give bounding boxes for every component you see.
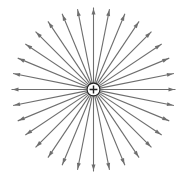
field-line xyxy=(95,9,110,83)
field-line xyxy=(77,9,92,83)
field-line xyxy=(101,88,176,92)
field-line xyxy=(92,97,96,172)
field-lines-canvas xyxy=(0,0,188,181)
arrowhead-icon xyxy=(169,88,175,92)
arrowhead-icon xyxy=(13,88,19,92)
field-line xyxy=(100,73,174,88)
field-diagram: Electric field lines of a positive point… xyxy=(0,0,188,181)
arrowhead-icon xyxy=(63,15,67,21)
arrowhead-icon xyxy=(134,22,139,28)
field-line xyxy=(77,96,92,170)
field-line xyxy=(92,8,96,83)
arrowhead-icon xyxy=(155,45,161,50)
arrowhead-icon xyxy=(120,15,124,21)
field-line xyxy=(13,91,87,106)
positive-charge-icon xyxy=(87,83,100,96)
arrowhead-icon xyxy=(120,158,124,164)
field-line xyxy=(95,96,110,170)
arrowhead-icon xyxy=(162,59,168,63)
arrowhead-icon xyxy=(26,45,32,50)
arrowhead-icon xyxy=(19,116,25,120)
arrowhead-icon xyxy=(49,22,54,28)
arrowhead-icon xyxy=(134,151,139,157)
arrowhead-icon xyxy=(49,151,54,157)
arrowhead-icon xyxy=(155,130,161,135)
arrowhead-icon xyxy=(92,165,96,171)
arrowhead-icon xyxy=(162,116,168,120)
arrowhead-icon xyxy=(92,9,96,15)
field-line xyxy=(12,88,87,92)
arrowhead-icon xyxy=(26,130,32,135)
arrowhead-icon xyxy=(63,158,67,164)
arrowhead-icon xyxy=(19,59,25,63)
field-line xyxy=(100,91,174,106)
field-line xyxy=(13,73,87,88)
